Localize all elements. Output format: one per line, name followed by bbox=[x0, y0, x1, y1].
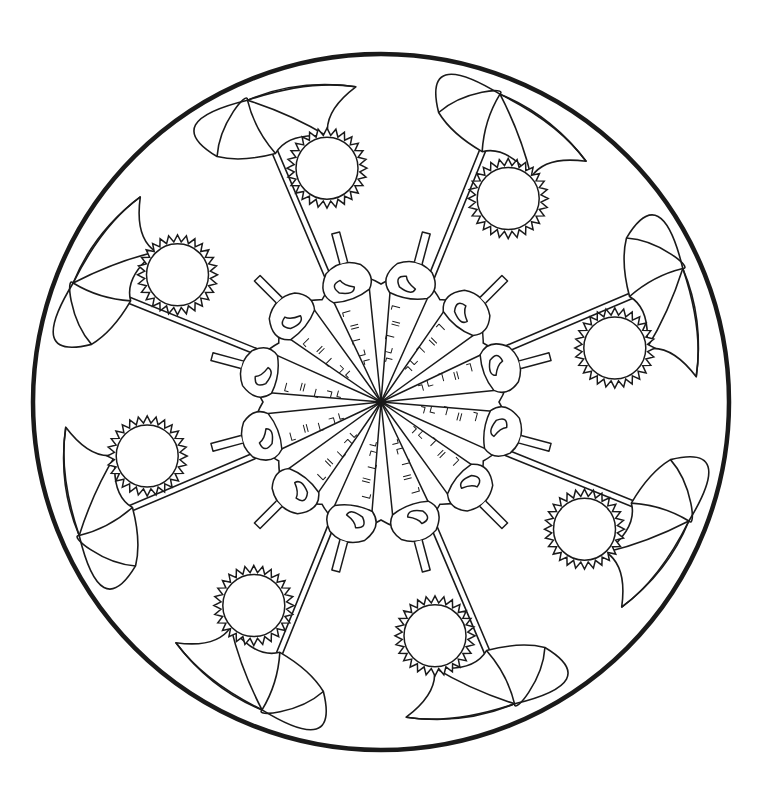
cone-ring bbox=[205, 226, 557, 578]
mandala-drawing bbox=[0, 0, 770, 795]
sun-icon bbox=[395, 596, 475, 676]
sun-icon bbox=[575, 308, 655, 388]
sun-icon bbox=[287, 128, 367, 208]
sun-icon bbox=[107, 416, 187, 496]
mandala-motifs bbox=[35, 56, 727, 748]
